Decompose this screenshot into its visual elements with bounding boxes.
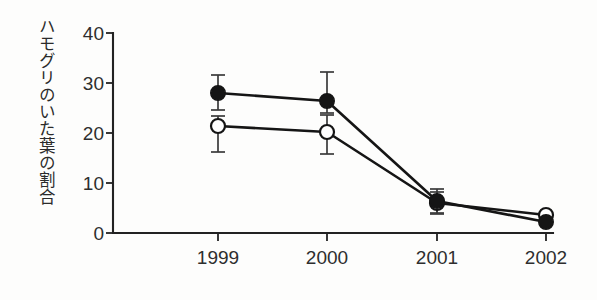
chart-figure: ハモグリのいた葉の割合 40 30 20 10 0 1 — [0, 0, 597, 300]
y-tick-label-10: 10 — [83, 173, 104, 194]
series-line-open — [218, 126, 546, 215]
y-tick-label-0: 0 — [93, 223, 104, 244]
y-tick-label-20: 20 — [83, 123, 104, 144]
line-path-open — [218, 126, 546, 215]
x-tick-labels: 1999 2000 2001 2002 — [197, 247, 567, 268]
x-tick-label-2002: 2002 — [525, 247, 567, 268]
x-tick-marks — [218, 233, 546, 241]
data-point-open-1999 — [211, 119, 225, 133]
line-path-filled — [218, 93, 546, 222]
data-point-open-2000 — [320, 125, 334, 139]
data-point-filled-2002 — [539, 215, 553, 229]
data-point-filled-2001 — [430, 194, 444, 208]
y-tick-label-40: 40 — [83, 23, 104, 44]
x-tick-label-2001: 2001 — [416, 247, 458, 268]
x-tick-label-2000: 2000 — [306, 247, 348, 268]
chart-plot-area: 40 30 20 10 0 1999 2000 2001 2 — [0, 0, 597, 300]
series-line-filled — [218, 93, 546, 222]
series-markers-open — [211, 119, 553, 222]
x-tick-label-1999: 1999 — [197, 247, 239, 268]
y-tick-label-30: 30 — [83, 73, 104, 94]
data-point-filled-2000 — [320, 94, 334, 108]
data-point-filled-1999 — [211, 86, 225, 100]
series-markers-filled — [211, 86, 553, 229]
y-tick-labels: 40 30 20 10 0 — [83, 23, 104, 244]
